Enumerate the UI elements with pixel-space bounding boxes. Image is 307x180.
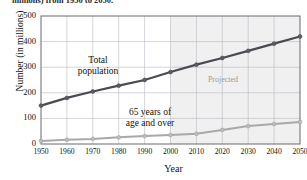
data-point (220, 128, 224, 132)
data-point (91, 137, 95, 141)
data-point (195, 63, 199, 67)
series-label-total-population-line2: population (62, 66, 134, 77)
data-point (143, 78, 147, 82)
data-point (117, 135, 121, 139)
data-point (272, 122, 276, 126)
series-label-elderly-line2: age and over (108, 118, 192, 129)
data-point (169, 70, 173, 74)
data-point (195, 132, 199, 136)
data-point (298, 35, 302, 39)
data-point (143, 134, 147, 138)
data-point (65, 138, 69, 142)
data-point (91, 90, 95, 94)
data-point (246, 124, 250, 128)
data-point (39, 104, 43, 108)
plot-area (0, 0, 307, 180)
data-point (246, 49, 250, 53)
series-label-total-population-line1: Total (62, 55, 134, 66)
series-label-elderly: 65 years of age and over (108, 107, 192, 129)
data-point (298, 120, 302, 124)
data-point (220, 56, 224, 60)
projected-region-label: Projected (196, 74, 250, 85)
data-point (169, 133, 173, 137)
data-point (272, 42, 276, 46)
data-point (117, 84, 121, 88)
series-label-elderly-line1: 65 years of (108, 107, 192, 118)
series-label-total-population: Total population (62, 55, 134, 77)
data-point (39, 139, 43, 143)
data-point (65, 96, 69, 100)
population-chart-figure: millions) from 1950 to 2050. Number (in … (0, 0, 307, 180)
